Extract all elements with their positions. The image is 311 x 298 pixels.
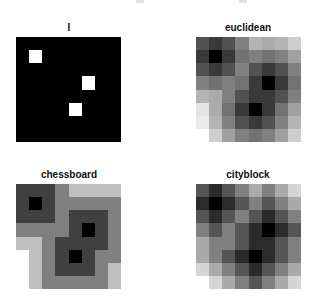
heatmap-cell — [196, 184, 209, 197]
heatmap-cell — [95, 263, 108, 276]
heatmap-cell — [29, 50, 42, 63]
heatmap-cell — [69, 103, 82, 116]
heatmap-cell — [55, 90, 68, 103]
heatmap-cell — [69, 37, 82, 50]
heatmap-cell — [222, 210, 235, 223]
heatmap-cell — [42, 210, 55, 223]
heatmap-cell — [95, 184, 108, 197]
heatmap-grid — [196, 37, 301, 142]
heatmap-cell — [16, 103, 29, 116]
heatmap-cell — [55, 210, 68, 223]
heatmap-cell — [95, 276, 108, 289]
heatmap-cell — [209, 129, 222, 142]
heatmap-cell — [42, 129, 55, 142]
heatmap-cell — [82, 76, 95, 89]
heatmap-cell — [209, 237, 222, 250]
heatmap-cell — [95, 197, 108, 210]
heatmap-cell — [262, 116, 275, 129]
heatmap-cell — [222, 263, 235, 276]
heatmap-cell — [82, 129, 95, 142]
heatmap-cell — [16, 223, 29, 236]
heatmap-cell — [42, 263, 55, 276]
heatmap-cell — [69, 116, 82, 129]
heatmap-cell — [222, 63, 235, 76]
heatmap-cell — [275, 263, 288, 276]
heatmap-cell — [235, 237, 248, 250]
heatmap-cell — [275, 76, 288, 89]
heatmap-cell — [222, 197, 235, 210]
heatmap-cell — [108, 250, 121, 263]
heatmap-cell — [42, 103, 55, 116]
heatmap-cell — [29, 237, 42, 250]
heatmap-cell — [275, 184, 288, 197]
heatmap-cell — [16, 263, 29, 276]
heatmap-cell — [42, 76, 55, 89]
heatmap-cell — [235, 103, 248, 116]
panel-title-chessboard: chessboard — [0, 169, 139, 181]
heatmap-cell — [222, 37, 235, 50]
heatmap-cell — [82, 197, 95, 210]
heatmap-cell — [222, 50, 235, 63]
heatmap-cell — [42, 197, 55, 210]
heatmap-cell — [222, 276, 235, 289]
heatmap-cell — [288, 90, 301, 103]
heatmap-cell — [29, 63, 42, 76]
heatmap-cell — [82, 263, 95, 276]
heatmap-cell — [108, 63, 121, 76]
heatmap-cell — [82, 63, 95, 76]
heatmap-cell — [16, 116, 29, 129]
heatmap-cell — [275, 197, 288, 210]
heatmap-cell — [95, 250, 108, 263]
heatmap-cell — [196, 263, 209, 276]
heatmap-cell — [222, 90, 235, 103]
heatmap-cell — [69, 210, 82, 223]
heatmap-cell — [262, 63, 275, 76]
heatmap-panel-I — [16, 37, 121, 142]
heatmap-cell — [29, 116, 42, 129]
heatmap-cell — [29, 210, 42, 223]
heatmap-cell — [29, 250, 42, 263]
heatmap-cell — [55, 223, 68, 236]
heatmap-cell — [82, 90, 95, 103]
heatmap-cell — [108, 223, 121, 236]
heatmap-cell — [222, 76, 235, 89]
heatmap-cell — [235, 76, 248, 89]
heatmap-cell — [222, 184, 235, 197]
heatmap-cell — [108, 103, 121, 116]
heatmap-cell — [69, 63, 82, 76]
heatmap-cell — [209, 197, 222, 210]
heatmap-cell — [275, 129, 288, 142]
heatmap-cell — [262, 50, 275, 63]
heatmap-cell — [288, 197, 301, 210]
heatmap-cell — [95, 103, 108, 116]
heatmap-cell — [262, 103, 275, 116]
heatmap-cell — [209, 103, 222, 116]
heatmap-cell — [288, 129, 301, 142]
panel-title-euclidean: euclidean — [178, 22, 311, 34]
heatmap-cell — [275, 250, 288, 263]
heatmap-cell — [29, 103, 42, 116]
heatmap-cell — [249, 37, 262, 50]
heatmap-cell — [262, 90, 275, 103]
heatmap-cell — [69, 50, 82, 63]
heatmap-panel-chessboard — [16, 184, 121, 289]
heatmap-cell — [16, 197, 29, 210]
heatmap-cell — [288, 210, 301, 223]
heatmap-cell — [196, 90, 209, 103]
heatmap-cell — [69, 237, 82, 250]
heatmap-cell — [196, 63, 209, 76]
heatmap-cell — [196, 116, 209, 129]
heatmap-cell — [275, 90, 288, 103]
heatmap-cell — [249, 90, 262, 103]
heatmap-cell — [235, 116, 248, 129]
heatmap-cell — [196, 197, 209, 210]
heatmap-cell — [108, 116, 121, 129]
heatmap-cell — [108, 197, 121, 210]
heatmap-cell — [288, 184, 301, 197]
heatmap-cell — [29, 129, 42, 142]
heatmap-cell — [69, 197, 82, 210]
heatmap-cell — [262, 197, 275, 210]
heatmap-cell — [55, 50, 68, 63]
heatmap-cell — [196, 103, 209, 116]
heatmap-cell — [209, 223, 222, 236]
